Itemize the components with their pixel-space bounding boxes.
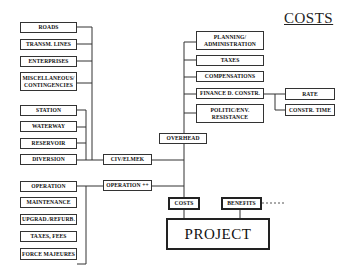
- box-finance-d-constr: FINANCE D. CONSTR.: [196, 88, 264, 99]
- box-overhead: OVERHEAD: [159, 133, 207, 144]
- box-upgrad-refurb: UPGRAD./REFURB.: [20, 214, 77, 225]
- box-diversion: DIVERSION: [20, 154, 77, 165]
- box-enterprises: ENTERPRISES: [20, 56, 77, 67]
- box-civ-elmek: CIV/ELMEK: [103, 154, 152, 165]
- box-roads: ROADS: [20, 22, 77, 33]
- box-costs: COSTS: [168, 197, 200, 210]
- box-compensations: COMPENSATIONS: [196, 71, 264, 82]
- box-operation: OPERATION: [20, 181, 77, 192]
- box-force-majeures: FORCE MAJEURES: [20, 248, 77, 260]
- box-station: STATION: [20, 105, 77, 116]
- page-title: COSTS: [284, 10, 333, 27]
- box-taxes: TAXES: [196, 55, 264, 66]
- box-maintenance: MAINTENANCE: [20, 197, 77, 208]
- box-waterway: WATERWAY: [20, 121, 77, 132]
- box-reservoir: RESERVOIR: [20, 138, 77, 149]
- box-rate: RATE: [285, 88, 335, 100]
- box-miscellaneous: MISCELLANEOUS/ CONTINGENCIES: [20, 72, 77, 91]
- box-taxes-fees: TAXES, FEES: [20, 231, 77, 242]
- box-planning-administration: PLANNING/ ADMINISTRATION: [196, 31, 264, 50]
- box-politic-env-resistance: POLITIC/ENV. RESISTANCE: [196, 104, 264, 123]
- box-benefits: BENEFITS: [221, 197, 262, 210]
- box-operation-plus: OPERATION ++: [103, 180, 152, 191]
- box-constr-time: CONSTR. TIME: [285, 104, 335, 116]
- box-transm-lines: TRANSM. LINES: [20, 39, 77, 50]
- box-project: PROJECT: [166, 218, 270, 250]
